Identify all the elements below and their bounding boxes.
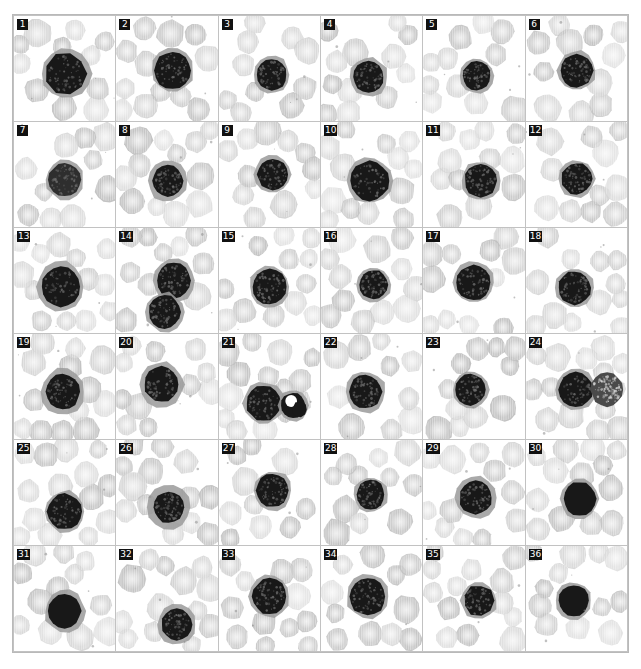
red-blood-cell	[185, 24, 207, 46]
debris-fleck	[457, 321, 459, 324]
micrograph-canvas	[116, 16, 217, 121]
micrograph-panel[interactable]: 13	[14, 228, 115, 333]
panel-number-badge: 30	[529, 443, 542, 454]
micrograph-panel[interactable]: 32	[116, 546, 217, 651]
debris-fleck	[105, 152, 106, 153]
debris-fleck	[288, 511, 291, 514]
debris-fleck	[372, 481, 374, 483]
debris-fleck	[309, 401, 311, 403]
micrograph-panel[interactable]: 3	[219, 16, 320, 121]
micrograph-canvas	[14, 546, 115, 651]
micrograph-panel[interactable]: 30	[526, 440, 627, 545]
panel-number-badge: 2	[119, 19, 130, 30]
panel-number-badge: 31	[17, 549, 30, 560]
micrograph-panel[interactable]: 10	[321, 122, 422, 227]
debris-fleck	[135, 567, 137, 569]
red-blood-cell	[502, 96, 525, 121]
micrograph-panel[interactable]: 4	[321, 16, 422, 121]
debris-fleck	[305, 566, 306, 567]
micrograph-canvas	[526, 440, 627, 545]
micrograph-panel[interactable]: 27	[219, 440, 320, 545]
micrograph-panel[interactable]: 12	[526, 122, 627, 227]
micrograph-panel[interactable]: 7	[14, 122, 115, 227]
debris-fleck	[296, 453, 298, 456]
panel-number-badge: 11	[426, 125, 439, 136]
micrograph-panel[interactable]: 2	[116, 16, 217, 121]
debris-fleck	[354, 283, 356, 285]
micrograph-canvas	[219, 546, 320, 651]
micrograph-panel[interactable]: 36	[526, 546, 627, 651]
micrograph-panel[interactable]: 22	[321, 334, 422, 439]
red-blood-cell	[351, 309, 375, 333]
micrograph-panel[interactable]: 15	[219, 228, 320, 333]
debris-fleck	[88, 590, 90, 592]
panel-number-badge: 6	[529, 19, 540, 30]
micrograph-canvas	[116, 334, 217, 439]
debris-fleck	[420, 486, 422, 488]
debris-fleck	[279, 132, 280, 133]
micrograph-panel[interactable]: 35	[423, 546, 524, 651]
debris-fleck	[610, 395, 612, 397]
debris-fleck	[380, 187, 382, 189]
debris-fleck	[520, 147, 521, 149]
micrograph-panel[interactable]: 33	[219, 546, 320, 651]
micrograph-panel[interactable]: 19	[14, 334, 115, 439]
debris-fleck	[559, 21, 562, 24]
debris-fleck	[106, 448, 108, 450]
red-blood-cell	[267, 339, 292, 366]
debris-fleck	[602, 179, 604, 181]
debris-fleck	[98, 302, 100, 304]
panel-number-badge: 18	[529, 231, 542, 242]
debris-fleck	[159, 598, 161, 601]
micrograph-panel[interactable]: 26	[116, 440, 217, 545]
micrograph-panel[interactable]: 17	[423, 228, 524, 333]
debris-fleck	[95, 78, 96, 79]
debris-fleck	[172, 185, 174, 187]
debris-fleck	[602, 244, 604, 246]
debris-fleck	[387, 61, 389, 63]
micrograph-panel[interactable]: 24	[526, 334, 627, 439]
debris-fleck	[44, 553, 47, 556]
micrograph-panel[interactable]: 11	[423, 122, 524, 227]
debris-fleck	[542, 432, 545, 435]
debris-fleck	[303, 75, 306, 78]
micrograph-canvas	[14, 228, 115, 333]
micrograph-panel[interactable]: 8	[116, 122, 217, 227]
micrograph-panel[interactable]: 29	[423, 440, 524, 545]
micrograph-panel[interactable]: 6	[526, 16, 627, 121]
red-blood-cell	[185, 338, 206, 361]
debris-fleck	[35, 243, 37, 245]
debris-fleck	[201, 233, 204, 236]
debris-fleck	[19, 395, 21, 397]
debris-fleck	[195, 521, 198, 524]
debris-fleck	[558, 469, 559, 470]
micrograph-panel[interactable]: 23	[423, 334, 524, 439]
debris-fleck	[478, 621, 480, 623]
micrograph-panel[interactable]: 9	[219, 122, 320, 227]
micrograph-panel[interactable]: 16	[321, 228, 422, 333]
debris-fleck	[149, 496, 151, 498]
micrograph-canvas	[526, 122, 627, 227]
micrograph-panel[interactable]: 31	[14, 546, 115, 651]
micrograph-panel[interactable]: 18	[526, 228, 627, 333]
micrograph-panel[interactable]: 25	[14, 440, 115, 545]
micrograph-panel[interactable]: 14	[116, 228, 217, 333]
micrograph-panel[interactable]: 21	[219, 334, 320, 439]
micrograph-canvas	[219, 334, 320, 439]
debris-fleck	[518, 584, 521, 587]
micrograph-panel[interactable]: 5	[423, 16, 524, 121]
panel-number-badge: 13	[17, 231, 30, 242]
micrograph-canvas	[423, 16, 524, 121]
debris-fleck	[335, 45, 338, 48]
panel-number-badge: 12	[529, 125, 542, 136]
debris-fleck	[103, 488, 105, 490]
debris-fleck	[296, 98, 298, 100]
micrograph-panel[interactable]: 1	[14, 16, 115, 121]
debris-fleck	[571, 574, 572, 575]
micrograph-canvas	[526, 16, 627, 121]
micrograph-panel[interactable]: 28	[321, 440, 422, 545]
debris-fleck	[210, 141, 213, 144]
red-blood-cell	[606, 416, 627, 439]
micrograph-panel[interactable]: 34	[321, 546, 422, 651]
micrograph-panel[interactable]: 20	[116, 334, 217, 439]
